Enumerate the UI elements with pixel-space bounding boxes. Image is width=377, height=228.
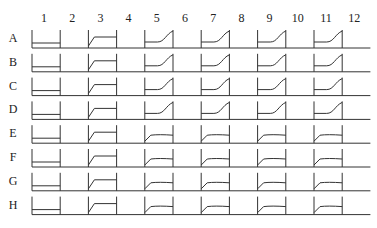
growth-curves <box>0 0 377 228</box>
microplate-diagram: 123456789101112 ABCDEFGH <box>0 0 377 228</box>
